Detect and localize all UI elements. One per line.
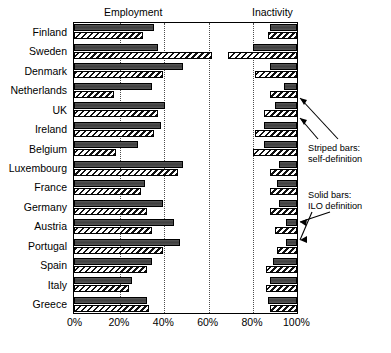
bar-employment-self bbox=[74, 32, 143, 39]
bar-inactivity-ilo bbox=[279, 200, 297, 207]
bar-employment-self bbox=[74, 110, 158, 117]
bar-employment-ilo bbox=[74, 122, 161, 129]
bar-employment-self bbox=[74, 91, 114, 98]
bar-employment-ilo bbox=[74, 161, 183, 168]
x-tick-label-60: 60% bbox=[197, 316, 218, 328]
bar-inactivity-ilo bbox=[279, 161, 297, 168]
bar-row bbox=[74, 198, 297, 217]
y-axis-label-france: France bbox=[34, 181, 67, 193]
bar-employment-ilo bbox=[74, 277, 132, 284]
bar-employment-self bbox=[74, 188, 141, 195]
bar-row bbox=[74, 159, 297, 178]
bar-employment-self bbox=[74, 149, 116, 156]
bar-employment-ilo bbox=[74, 63, 183, 70]
bar-inactivity-ilo bbox=[273, 258, 297, 265]
bar-inactivity-self bbox=[268, 32, 297, 39]
bar-employment-ilo bbox=[74, 102, 165, 109]
bar-row bbox=[74, 42, 297, 61]
bar-row bbox=[74, 276, 297, 295]
bar-employment-ilo bbox=[74, 200, 163, 207]
bar-inactivity-self bbox=[255, 71, 297, 78]
bar-inactivity-ilo bbox=[284, 83, 297, 90]
bar-employment-ilo bbox=[74, 239, 180, 246]
annotation-striped-line2: self-definition bbox=[308, 154, 362, 165]
bar-inactivity-ilo bbox=[268, 297, 297, 304]
bar-inactivity-ilo bbox=[277, 180, 297, 187]
y-axis-label-belgium: Belgium bbox=[29, 143, 67, 155]
bar-inactivity-self bbox=[270, 188, 297, 195]
annotation-solid-line1: Solid bars: bbox=[308, 190, 362, 201]
annotation-solid-bars: Solid bars: ILO definition bbox=[308, 190, 362, 212]
bar-inactivity-ilo bbox=[270, 63, 297, 70]
bar-inactivity-self bbox=[266, 266, 297, 273]
bar-row bbox=[74, 257, 297, 276]
bar-employment-self bbox=[74, 169, 178, 176]
y-axis-label-luxembourg: Luxembourg bbox=[9, 162, 67, 174]
bar-employment-self bbox=[74, 52, 212, 59]
bar-employment-ilo bbox=[74, 141, 138, 148]
bar-employment-ilo bbox=[74, 24, 154, 31]
bar-employment-ilo bbox=[74, 219, 174, 226]
bar-employment-ilo bbox=[74, 83, 152, 90]
bar-employment-self bbox=[74, 266, 147, 273]
x-tick-label-20: 20% bbox=[108, 316, 129, 328]
bar-inactivity-self bbox=[270, 169, 297, 176]
bar-row bbox=[74, 101, 297, 120]
bar-inactivity-self bbox=[255, 130, 297, 137]
panel-title-employment: Employment bbox=[104, 6, 162, 18]
bar-inactivity-self bbox=[270, 208, 297, 215]
panel-title-inactivity: Inactivity bbox=[252, 6, 293, 18]
bar-inactivity-self bbox=[275, 227, 297, 234]
bar-row bbox=[74, 23, 297, 42]
y-axis-label-netherlands: Netherlands bbox=[10, 84, 67, 96]
bar-employment-ilo bbox=[74, 297, 147, 304]
bar-employment-ilo bbox=[74, 44, 158, 51]
x-tick-label-100: 100% bbox=[283, 316, 310, 328]
bar-inactivity-ilo bbox=[264, 141, 297, 148]
bar-row bbox=[74, 81, 297, 100]
bar-inactivity-self bbox=[270, 305, 297, 312]
bar-row bbox=[74, 140, 297, 159]
y-axis-label-ireland: Ireland bbox=[35, 123, 67, 135]
bar-employment-ilo bbox=[74, 180, 145, 187]
bar-inactivity-self bbox=[228, 52, 297, 59]
bar-inactivity-ilo bbox=[286, 219, 297, 226]
bar-inactivity-self bbox=[270, 91, 297, 98]
bar-inactivity-ilo bbox=[270, 277, 297, 284]
x-tick-label-80: 80% bbox=[242, 316, 263, 328]
y-axis-label-finland: Finland bbox=[33, 26, 67, 38]
bar-inactivity-ilo bbox=[275, 102, 297, 109]
y-axis-labels: FinlandSwedenDenmarkNetherlandsUKIreland… bbox=[0, 22, 70, 314]
bar-inactivity-self bbox=[277, 247, 297, 254]
bar-inactivity-self bbox=[253, 149, 297, 156]
y-axis-label-sweden: Sweden bbox=[29, 45, 67, 57]
bar-employment-self bbox=[74, 305, 149, 312]
bar-employment-self bbox=[74, 71, 163, 78]
bar-inactivity-ilo bbox=[253, 44, 297, 51]
bar-employment-self bbox=[74, 130, 154, 137]
bar-inactivity-ilo bbox=[270, 24, 297, 31]
bar-employment-self bbox=[74, 227, 152, 234]
bar-inactivity-self bbox=[266, 285, 297, 292]
annotation-striped-bars: Striped bars: self-definition bbox=[308, 143, 362, 165]
y-axis-label-uk: UK bbox=[52, 104, 67, 116]
bar-row bbox=[74, 237, 297, 256]
bar-employment-self bbox=[74, 285, 129, 292]
annotation-striped-line1: Striped bars: bbox=[308, 143, 362, 154]
bar-row bbox=[74, 62, 297, 81]
plot-area bbox=[73, 22, 298, 314]
bar-row bbox=[74, 218, 297, 237]
y-axis-label-italy: Italy bbox=[48, 279, 67, 291]
bar-row bbox=[74, 296, 297, 315]
bar-inactivity-ilo bbox=[286, 239, 297, 246]
y-axis-label-austria: Austria bbox=[34, 220, 67, 232]
bar-employment-self bbox=[74, 247, 163, 254]
bar-employment-ilo bbox=[74, 258, 152, 265]
y-axis-label-greece: Greece bbox=[33, 298, 67, 310]
y-axis-label-portugal: Portugal bbox=[28, 240, 67, 252]
bar-row bbox=[74, 179, 297, 198]
chart-figure: Employment Inactivity FinlandSwedenDenma… bbox=[0, 0, 391, 353]
bar-inactivity-ilo bbox=[264, 122, 297, 129]
x-axis: 0%20%40%60%80%100% bbox=[0, 316, 391, 336]
bar-row bbox=[74, 120, 297, 139]
